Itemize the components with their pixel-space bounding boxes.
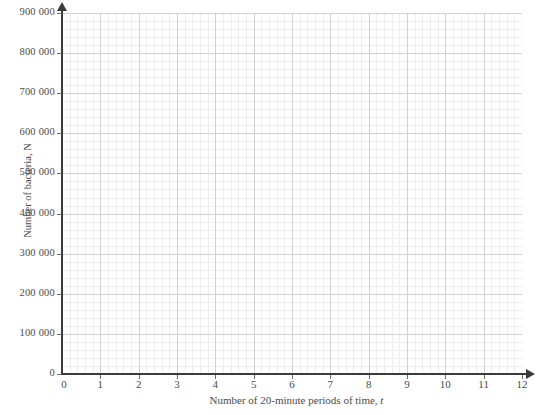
x-tick-label: 6 (289, 378, 295, 390)
y-tick-mark (57, 214, 62, 215)
x-axis-variable-symbol: t (380, 394, 383, 406)
x-tick-label: 9 (404, 378, 410, 390)
x-tick-label: 1 (98, 378, 104, 390)
x-tick-label: 4 (213, 378, 219, 390)
x-tick-label: 10 (440, 378, 451, 390)
y-tick-mark (57, 173, 62, 174)
x-axis-title: Number of 20-minute periods of time, t (0, 394, 537, 406)
y-axis-title: Number of bacteria, N (22, 91, 33, 291)
x-tick-label: 2 (136, 378, 142, 390)
y-tick-label: 100 000 (19, 327, 55, 338)
y-tick-mark (57, 374, 62, 375)
x-tick-label: 7 (328, 378, 334, 390)
y-tick-mark (57, 334, 62, 335)
y-tick-label: 800 000 (19, 46, 55, 57)
graph-page: 0100 000200 000300 000400 000500 000600 … (0, 0, 537, 415)
y-tick-mark (57, 254, 62, 255)
y-tick-mark (57, 133, 62, 134)
x-axis-title-text: Number of 20-minute periods of time, (210, 394, 378, 406)
x-tick-label: 12 (517, 378, 528, 390)
y-axis-line (61, 9, 63, 375)
x-tick-label: 8 (366, 378, 372, 390)
y-tick-mark (57, 294, 62, 295)
y-tick-label: 0 (50, 367, 55, 378)
x-tick-label: 5 (251, 378, 257, 390)
x-tick-label: 0 (61, 378, 67, 390)
x-tick-label: 11 (478, 378, 489, 390)
y-tick-mark (57, 13, 62, 14)
plot-area-grid (62, 13, 522, 374)
x-tick-label: 3 (174, 378, 180, 390)
y-tick-label: 900 000 (19, 6, 55, 17)
y-tick-mark (57, 53, 62, 54)
y-tick-mark (57, 93, 62, 94)
y-axis-arrow-icon (57, 2, 67, 11)
x-axis-line (61, 373, 529, 375)
